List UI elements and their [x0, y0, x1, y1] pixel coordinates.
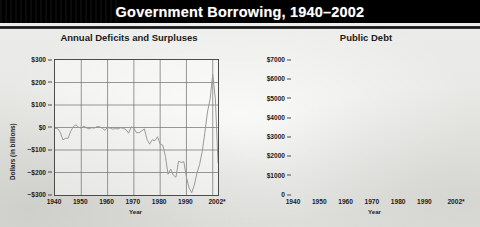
x-tick-label: 1960 [99, 198, 114, 205]
y-axis-ticks-left: $300$200$100$0−$100−$200−$300 [0, 59, 52, 194]
y-tick-label: $200 [31, 78, 52, 85]
y-tick-label: −$300 [27, 191, 52, 198]
y-tick-label: 0 [281, 191, 291, 198]
y-axis-ticks-right: $7000$6000$5000$4000$3000$2000$10000 [239, 59, 291, 194]
x-tick-label: 1970 [126, 198, 141, 205]
x-tick-label: 1980 [391, 198, 406, 205]
x-tick-label: 1990 [178, 198, 193, 205]
y-tick-label: $0 [39, 123, 52, 130]
x-axis-ticks-left: 1940195019601970198019902002* [54, 198, 217, 208]
chart-panel-annual-deficits: Annual Deficits and Surpluses Dollars (i… [0, 28, 240, 227]
x-tick-label: 2002* [208, 198, 225, 205]
x-tick-label: 1970 [365, 198, 380, 205]
chart-panel-public-debt: Public Debt Dollars (in billions) $7000$… [240, 28, 480, 227]
y-tick-label: $2000 [267, 152, 291, 159]
annual-deficits-line-chart [55, 60, 218, 195]
y-tick-label: $100 [31, 101, 52, 108]
x-axis-ticks-right: 1940195019601970198019902002* [293, 198, 456, 208]
y-tick-label: $5000 [267, 94, 291, 101]
y-tick-label: $7000 [267, 56, 291, 63]
x-tick-label: 1990 [417, 198, 432, 205]
page-title: Government Borrowing, 1940–2002 [0, 0, 480, 23]
x-tick-label: 1950 [312, 198, 327, 205]
y-tick-label: −$200 [27, 168, 52, 175]
x-tick-label: 1960 [338, 198, 353, 205]
title-band: Government Borrowing, 1940–2002 [0, 0, 480, 23]
y-tick-label: $4000 [267, 113, 291, 120]
chart-title-annual-deficits: Annual Deficits and Surpluses [0, 32, 240, 43]
y-tick-label: $3000 [267, 133, 291, 140]
x-axis-label-left: Year [54, 208, 217, 215]
y-tick-label: $300 [31, 56, 52, 63]
y-tick-label: $6000 [267, 75, 291, 82]
plot-area-annual-deficits [54, 59, 219, 196]
x-tick-label: 1950 [73, 198, 88, 205]
x-tick-label: 1940 [47, 198, 62, 205]
y-tick-label: −$100 [27, 146, 52, 153]
y-tick-label: $1000 [267, 171, 291, 178]
x-tick-label: 1980 [152, 198, 167, 205]
x-tick-label: 1940 [286, 198, 301, 205]
x-axis-label-right: Year [293, 208, 456, 215]
chart-title-public-debt: Public Debt [240, 32, 480, 43]
x-tick-label: 2002* [447, 198, 464, 205]
